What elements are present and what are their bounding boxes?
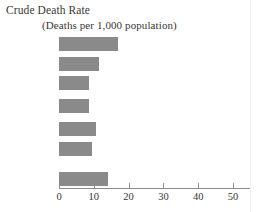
- chart-subtitle: (Deaths per 1,000 population): [42, 19, 177, 31]
- bar-row: Europe: [0, 121, 263, 141]
- bar-row: LatinAmerica: [0, 98, 263, 118]
- bar-category-label-text: Oceania: [0, 140, 60, 151]
- bar-chart: Crude Death Rate (Deaths per 1,000 popul…: [0, 0, 263, 212]
- x-axis-tick: [129, 183, 130, 189]
- bar-category-label-text: NorthAmerica: [0, 73, 60, 94]
- bar-category-label-text: Europe: [0, 120, 60, 131]
- x-axis-tick-label: 30: [151, 191, 175, 202]
- bar: [59, 76, 89, 90]
- plot-area: AfricaAsiaNorthAmericaLatinAmericaEurope…: [0, 34, 263, 212]
- bar-category-label-text: LatinAmerica: [0, 96, 60, 117]
- bar: [59, 57, 99, 71]
- bar-row: Oceania: [0, 141, 263, 161]
- x-axis-tick-label: 0: [47, 191, 71, 202]
- bar-row: Africa: [0, 36, 263, 56]
- x-axis-tick: [198, 183, 199, 189]
- bar: [59, 37, 118, 51]
- bar: [59, 99, 89, 113]
- bar: [59, 142, 92, 156]
- x-axis-tick-label: 20: [117, 191, 141, 202]
- x-axis-tick-label: 40: [186, 191, 210, 202]
- x-axis-tick: [233, 183, 234, 189]
- bar-row: NorthAmerica: [0, 75, 263, 95]
- bar: [59, 172, 108, 186]
- right-frame-rule: [250, 0, 251, 212]
- bar-category-label-text: Kenya: [0, 173, 60, 184]
- chart-title: Crude Death Rate: [6, 4, 90, 16]
- bar: [59, 122, 96, 136]
- x-axis-tick: [94, 183, 95, 189]
- bar-category-label-text: Asia: [0, 56, 60, 67]
- x-axis-tick: [163, 183, 164, 189]
- x-axis-line: [59, 188, 251, 189]
- x-axis-tick-label: 10: [82, 191, 106, 202]
- bar-category-label-text: Africa: [0, 36, 60, 47]
- x-axis-tick-label: 50: [221, 191, 245, 202]
